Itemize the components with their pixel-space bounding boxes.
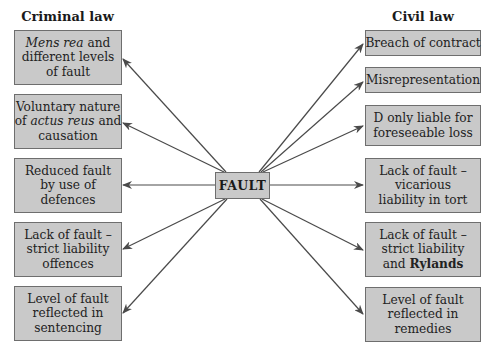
civil-item-remedies: Level of faultreflected inremedies [365, 287, 481, 342]
text-run: different levels [22, 50, 115, 64]
text-run: of fault [46, 65, 90, 79]
text-run: strict liability [27, 242, 110, 256]
text-run: Rylands [410, 257, 464, 271]
civil-law-heading: Civil law [365, 9, 481, 24]
box-text-line: strict liability [379, 242, 467, 257]
box-text: Lack of fault –strict liabilityoffences [24, 228, 112, 272]
text-run: actus reus [30, 114, 94, 128]
arrow-to-actus-reus [123, 123, 224, 172]
box-text: Level of faultreflected insentencing [27, 292, 108, 336]
criminal-item-defences: Reduced faultby use ofdefences [14, 158, 122, 213]
text-run: vicarious [395, 178, 451, 192]
text-run: and [84, 36, 111, 50]
text-run: causation [38, 129, 97, 143]
box-text-line: Lack of fault – [24, 228, 112, 243]
box-text: Mens rea anddifferent levelsof fault [22, 36, 115, 80]
text-run: Mens rea [26, 36, 84, 50]
box-text-line: of fault [22, 65, 115, 80]
text-run: by use of [40, 178, 96, 192]
box-text-line: D only liable for [373, 111, 472, 126]
box-text-line: causation [15, 129, 122, 144]
text-run: Misrepresentation [366, 73, 480, 87]
criminal-item-actus-reus: Voluntary natureof actus reus andcausati… [14, 94, 122, 149]
arrow-to-misrepresentation [261, 82, 363, 172]
arrow-to-rylands [262, 199, 363, 250]
civil-item-foreseeable-loss: D only liable forforeseeable loss [365, 105, 481, 146]
arrow-to-mens-rea [123, 59, 226, 172]
box-text: Breach of contract [365, 36, 480, 51]
box-text-line: Voluntary nature [15, 100, 122, 115]
arrow-to-remedies [260, 199, 363, 314]
civil-item-misrepresentation: Misrepresentation [365, 67, 481, 93]
box-text: D only liable forforeseeable loss [373, 111, 472, 140]
box-text-line: Lack of fault – [379, 164, 468, 179]
text-run: D only liable for [373, 111, 472, 125]
text-run: and [95, 114, 122, 128]
box-text-line: reflected in [27, 306, 108, 321]
box-text-line: Breach of contract [365, 36, 480, 51]
text-run: defences [41, 193, 96, 207]
text-run: Lack of fault – [379, 164, 467, 178]
box-text-line: liability in tort [379, 193, 468, 208]
arrow-to-strict-liability-offences [123, 199, 225, 249]
box-text-line: Level of fault [382, 293, 463, 308]
criminal-item-mens-rea: Mens rea anddifferent levelsof fault [14, 30, 122, 85]
box-text-line: different levels [22, 50, 115, 65]
box-text-line: Reduced fault [25, 164, 111, 179]
fault-center-box: FAULT [215, 172, 270, 199]
box-text-line: strict liability [24, 242, 112, 257]
box-text-line: Lack of fault – [379, 228, 467, 243]
text-run: of [15, 114, 31, 128]
text-run: liability in tort [379, 193, 468, 207]
text-run: and [383, 257, 410, 271]
text-run: Breach of contract [365, 36, 480, 50]
box-text-line: sentencing [27, 321, 108, 336]
box-text-line: remedies [382, 322, 463, 337]
box-text: Lack of fault –strict liabilityand Rylan… [379, 228, 467, 272]
civil-item-rylands: Lack of fault –strict liabilityand Rylan… [365, 222, 481, 277]
box-text-line: vicarious [379, 178, 468, 193]
criminal-law-heading: Criminal law [14, 9, 121, 24]
text-run: reflected in [388, 307, 459, 321]
text-run: Reduced fault [25, 164, 111, 178]
text-run: Level of fault [27, 292, 108, 306]
box-text-line: Misrepresentation [366, 73, 480, 88]
text-run: sentencing [34, 321, 102, 335]
box-text-line: of actus reus and [15, 114, 122, 129]
criminal-item-sentencing: Level of faultreflected insentencing [14, 286, 122, 341]
text-run: remedies [395, 322, 452, 336]
arrow-to-foreseeable-loss [263, 126, 363, 172]
civil-item-breach-of-contract: Breach of contract [365, 30, 481, 56]
box-text-line: Mens rea and [22, 36, 115, 51]
box-text-line: Level of fault [27, 292, 108, 307]
box-text: Lack of fault –vicariousliability in tor… [379, 164, 468, 208]
criminal-item-strict-liability: Lack of fault –strict liabilityoffences [14, 222, 122, 277]
box-text-line: defences [25, 193, 111, 208]
box-text-line: and Rylands [379, 257, 467, 272]
arrow-to-breach-of-contract [259, 44, 363, 172]
text-run: offences [42, 257, 93, 271]
box-text: Reduced faultby use ofdefences [25, 164, 111, 208]
text-run: reflected in [33, 306, 104, 320]
box-text-line: foreseeable loss [373, 126, 472, 141]
box-text-line: offences [24, 257, 112, 272]
arrow-to-sentencing [123, 199, 227, 313]
box-text: Voluntary natureof actus reus andcausati… [15, 100, 122, 144]
text-run: Lack of fault – [24, 228, 112, 242]
civil-item-vicarious-liability: Lack of fault –vicariousliability in tor… [365, 158, 481, 213]
text-run: Level of fault [382, 293, 463, 307]
box-text-line: by use of [25, 178, 111, 193]
text-run: strict liability [382, 242, 465, 256]
text-run: Lack of fault – [379, 228, 467, 242]
box-text-line: reflected in [382, 307, 463, 322]
box-text: Misrepresentation [366, 73, 480, 88]
text-run: Voluntary nature [16, 100, 120, 114]
fault-diagram: Criminal law Civil law FAULT Mens rea an… [0, 0, 497, 354]
text-run: foreseeable loss [373, 126, 472, 140]
box-text: Level of faultreflected inremedies [382, 293, 463, 337]
